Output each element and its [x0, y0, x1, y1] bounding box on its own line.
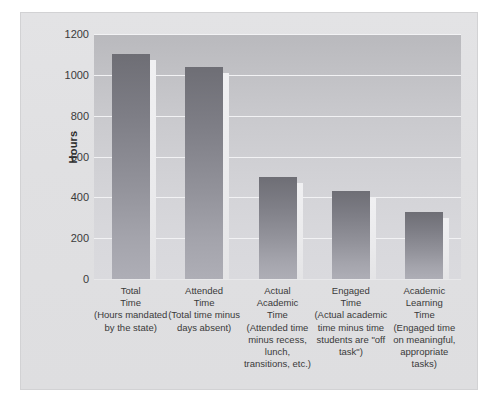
bar-total-time [112, 54, 150, 279]
x-label-description: (Hours mandated by the state) [94, 309, 167, 333]
x-label-main-line: Time [388, 309, 461, 321]
plot-area [94, 34, 461, 279]
x-label-academic-learning-time: AcademicLearningTime(Engaged time on mea… [388, 285, 461, 370]
x-axis-tick-labels: TotalTime(Hours mandated by the state)At… [94, 285, 461, 389]
x-label-engaged-time: EngagedTime(Actual academic time minus t… [314, 285, 387, 358]
x-label-main-line: Time [241, 309, 314, 321]
y-tick-label-1200: 1200 [49, 28, 89, 40]
bar-fill-academic-learning-time [405, 212, 443, 279]
y-tick-label-800: 800 [49, 110, 89, 122]
x-label-main-line: Learning [388, 297, 461, 309]
bar-highlight-attended-time [223, 73, 229, 279]
bar-highlight-actual-academic-time [297, 183, 303, 279]
bar-highlight-engaged-time [370, 197, 376, 279]
x-label-actual-academic-time: ActualAcademicTime(Attended time minus r… [241, 285, 314, 370]
x-label-main-line: Academic [241, 297, 314, 309]
y-tick-label-400: 400 [49, 191, 89, 203]
y-tick-label-600: 600 [49, 151, 89, 163]
x-label-description: (Actual academic time minus time student… [314, 309, 387, 358]
bar-fill-total-time [112, 54, 150, 279]
x-label-main-line: Time [167, 297, 240, 309]
gridline-1200 [94, 34, 461, 35]
bar-fill-actual-academic-time [259, 177, 297, 279]
bar-highlight-total-time [150, 60, 156, 279]
x-label-description: (Attended time minus recess, lunch, tran… [241, 322, 314, 371]
bar-fill-engaged-time [332, 191, 370, 279]
x-label-main-line: Academic [388, 285, 461, 297]
bar-fill-attended-time [185, 67, 223, 279]
bar-engaged-time [332, 191, 370, 279]
bar-highlight-academic-learning-time [443, 218, 449, 279]
x-label-main-line: Actual [241, 285, 314, 297]
y-tick-label-1000: 1000 [49, 69, 89, 81]
x-label-main-line: Attended [167, 285, 240, 297]
gridline-0 [94, 279, 461, 280]
x-label-main-line: Engaged [314, 285, 387, 297]
x-label-description: (Engaged time on meaningful, appropriate… [388, 322, 461, 371]
x-label-total-time: TotalTime(Hours mandated by the state) [94, 285, 167, 334]
bar-attended-time [185, 67, 223, 279]
x-label-main-line: Time [94, 297, 167, 309]
y-tick-label-0: 0 [49, 273, 89, 285]
bar-academic-learning-time [405, 212, 443, 279]
x-label-main-line: Time [314, 297, 387, 309]
x-label-attended-time: AttendedTime(Total time minus days absen… [167, 285, 240, 334]
x-label-description: (Total time minus days absent) [167, 309, 240, 333]
chart-figure: Hours 020040060080010001200 TotalTime(Ho… [20, 12, 478, 390]
bar-actual-academic-time [259, 177, 297, 279]
y-axis-tick-labels: 020040060080010001200 [43, 34, 89, 279]
x-label-main-line: Total [94, 285, 167, 297]
y-tick-label-200: 200 [49, 232, 89, 244]
